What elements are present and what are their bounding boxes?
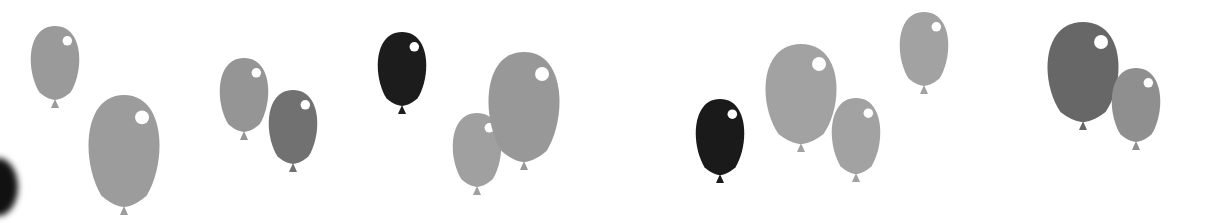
balloon-icon — [483, 52, 565, 172]
balloon-icon — [216, 58, 272, 142]
partial-black-balloon-edge — [0, 158, 18, 216]
balloon-icon — [896, 12, 952, 96]
balloon-icon — [692, 99, 748, 185]
balloon-icon — [828, 98, 884, 184]
balloon-icon — [27, 26, 83, 110]
balloon-icon — [1108, 68, 1164, 152]
balloon-icon — [83, 95, 165, 217]
balloon-icon — [265, 90, 321, 174]
balloon-icon — [374, 32, 430, 116]
